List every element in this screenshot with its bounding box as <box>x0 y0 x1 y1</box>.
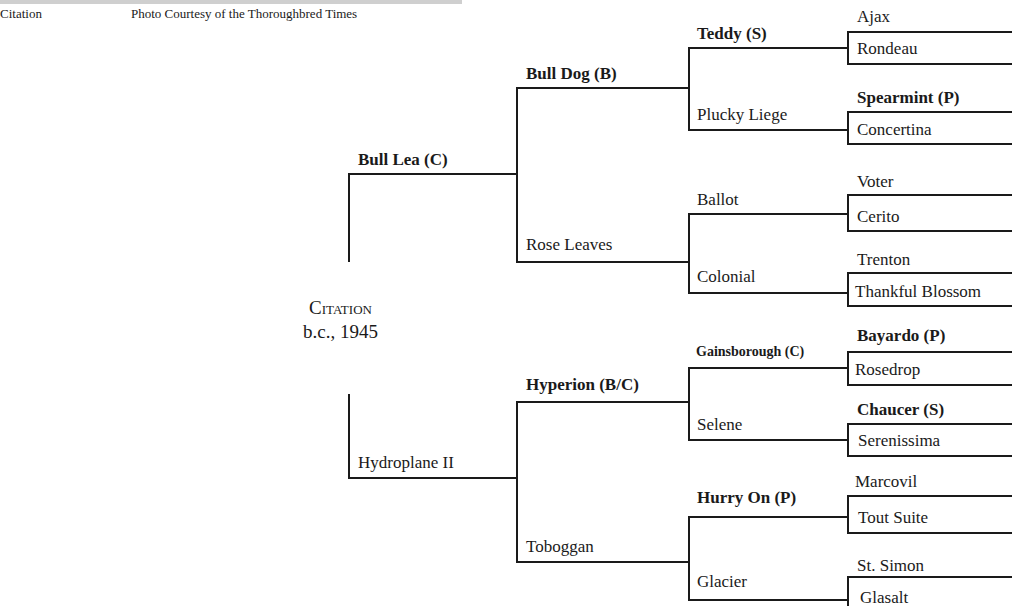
g3-horse: Ballot <box>697 191 739 208</box>
g4-horse: Cerito <box>857 208 900 225</box>
g4-horse: Trenton <box>857 251 910 268</box>
g4-horse: Rosedrop <box>855 361 920 378</box>
g3-horse: Colonial <box>697 268 756 285</box>
root-horse: Citation b.c., 1945 <box>303 296 378 344</box>
g4-horse: Marcovil <box>855 473 917 490</box>
sire: Bull Lea (C) <box>358 151 448 168</box>
sire-dam: Rose Leaves <box>526 236 612 253</box>
g3-horse: Gainsborough (C) <box>696 345 804 359</box>
root-info: b.c., 1945 <box>303 320 378 344</box>
g4-horse: Thankful Blossom <box>855 283 981 300</box>
dam-sire: Hyperion (B/C) <box>526 376 639 393</box>
g4-horse: Ajax <box>857 8 890 25</box>
sire-sire: Bull Dog (B) <box>526 65 617 82</box>
dam-dam: Toboggan <box>526 538 594 555</box>
g3-horse: Selene <box>697 416 742 433</box>
g4-horse: Rondeau <box>857 40 917 57</box>
g3-horse: Glacier <box>697 573 747 590</box>
g4-horse: Voter <box>857 173 894 190</box>
root-name: Citation <box>303 296 378 320</box>
g3-horse: Plucky Liege <box>697 106 787 123</box>
g4-horse: St. Simon <box>857 557 924 574</box>
g4-horse: Spearmint (P) <box>857 89 959 106</box>
g4-horse: Tout Suite <box>858 509 928 526</box>
g3-horse: Teddy (S) <box>697 25 767 42</box>
g4-horse: Serenissima <box>858 432 940 449</box>
g4-horse: Chaucer (S) <box>857 401 944 418</box>
g3-horse: Hurry On (P) <box>697 489 796 506</box>
g4-horse: Bayardo (P) <box>857 327 945 344</box>
dam: Hydroplane II <box>358 454 454 471</box>
g4-horse: Concertina <box>857 121 932 138</box>
g4-horse: Glasalt <box>860 589 908 606</box>
